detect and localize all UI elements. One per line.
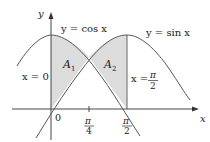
tick-pi-over-4-num: π (84, 116, 92, 126)
x-equals-pi-over-2-label: x = (131, 73, 148, 84)
y-axis-arrow-icon (49, 12, 54, 19)
sine-label: y = sin x (145, 27, 190, 38)
tick-pi-over-2-num: π (122, 116, 130, 126)
region-a1 (51, 35, 89, 109)
region-a1-sub: 1 (71, 65, 75, 73)
region-a2-sub: 2 (112, 65, 116, 73)
origin-label: 0 (55, 112, 61, 123)
x-equals-zero-label: x = 0 (22, 71, 49, 82)
tick-pi-over-4-den: 4 (86, 126, 92, 136)
tick-pi-over-2-den: 2 (124, 126, 130, 136)
region-a1-label: A (62, 58, 71, 71)
area-between-curves-diagram: y x 0 y = cos x y = sin x x = 0 x = π 2 … (0, 0, 210, 142)
region-a2 (89, 35, 127, 109)
x-axis-label: x (200, 113, 206, 124)
region-a2-label: A (103, 58, 112, 71)
cosine-label: y = cos x (60, 23, 107, 34)
x-axis-arrow-icon (192, 107, 199, 112)
x-equals-pi-over-2-num: π (149, 70, 157, 80)
x-equals-pi-over-2-den: 2 (150, 81, 156, 91)
y-axis-label: y (37, 8, 44, 19)
